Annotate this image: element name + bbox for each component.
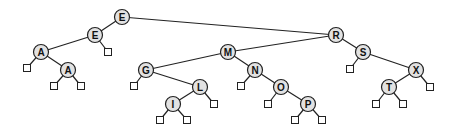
tree-edge: [228, 35, 336, 52]
leaf-square-icon: [211, 101, 218, 108]
node-label: N: [251, 65, 258, 76]
leaf-square-icon: [131, 83, 138, 90]
leaf-square-icon: [292, 117, 299, 124]
tree-node-a: A: [34, 45, 49, 60]
null-leaf: [131, 83, 138, 90]
node-label: X: [413, 65, 420, 76]
tree-node-l: L: [193, 80, 208, 95]
node-label: A: [37, 47, 44, 58]
nodes-layer: EEAARMGLINOPSXT: [34, 10, 424, 112]
null-leaf: [373, 101, 380, 108]
tree-canvas: EEAARMGLINOPSXT: [0, 0, 458, 137]
leaf-square-icon: [373, 101, 380, 108]
node-label: L: [197, 82, 203, 93]
tree-node-e: E: [115, 10, 130, 25]
node-label: A: [64, 65, 71, 76]
leaf-square-icon: [157, 117, 164, 124]
null-leaf: [319, 117, 326, 124]
leaf-square-icon: [24, 65, 31, 72]
tree-node-m: M: [221, 45, 236, 60]
tree-node-n: N: [248, 63, 263, 78]
null-leaf: [184, 117, 191, 124]
node-label: S: [360, 47, 367, 58]
node-label: M: [224, 47, 232, 58]
tree-node-t: T: [382, 80, 397, 95]
null-leaf: [427, 84, 434, 91]
tree-node-x: X: [409, 63, 424, 78]
tree-edge: [146, 70, 200, 87]
tree-node-i: I: [166, 97, 181, 112]
leaf-square-icon: [319, 117, 326, 124]
tree-edge: [122, 17, 336, 35]
tree-edge: [363, 52, 416, 70]
null-leaf: [105, 49, 112, 56]
leaf-square-icon: [105, 49, 112, 56]
null-leaf: [400, 101, 407, 108]
leaf-square-icon: [238, 83, 245, 90]
tree-node-r: R: [329, 28, 344, 43]
node-label: G: [142, 65, 150, 76]
tree-node-e: E: [88, 28, 103, 43]
leaf-square-icon: [400, 101, 407, 108]
leaf-square-icon: [427, 84, 434, 91]
node-label: E: [119, 12, 126, 23]
tree-node-p: P: [301, 97, 316, 112]
null-leaf: [265, 101, 272, 108]
tree-edge: [41, 35, 95, 52]
leaf-square-icon: [265, 101, 272, 108]
tree-node-a: A: [61, 63, 76, 78]
leaf-square-icon: [347, 66, 354, 73]
node-label: O: [277, 82, 285, 93]
node-label: I: [172, 99, 175, 110]
tree-edge: [146, 52, 228, 70]
tree-diagram: EEAARMGLINOPSXT: [0, 0, 458, 137]
null-leaf: [238, 83, 245, 90]
null-leaf: [347, 66, 354, 73]
null-leaf: [292, 117, 299, 124]
leaf-square-icon: [51, 83, 58, 90]
leaf-square-icon: [78, 83, 85, 90]
node-label: E: [92, 30, 99, 41]
null-leaf: [24, 65, 31, 72]
node-label: P: [305, 99, 312, 110]
tree-node-o: O: [274, 80, 289, 95]
leaf-square-icon: [184, 117, 191, 124]
null-leaf: [51, 83, 58, 90]
null-leaf: [157, 117, 164, 124]
null-leaf: [211, 101, 218, 108]
tree-node-s: S: [356, 45, 371, 60]
node-label: T: [386, 82, 392, 93]
tree-node-g: G: [139, 63, 154, 78]
node-label: R: [332, 30, 340, 41]
null-leaf: [78, 83, 85, 90]
